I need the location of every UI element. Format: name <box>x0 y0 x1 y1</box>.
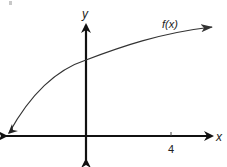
corner-mark <box>9 1 12 5</box>
function-curve <box>9 27 212 133</box>
x-axis-label: x <box>215 130 223 144</box>
function-graph: 4 x y f(x) <box>0 0 227 167</box>
x-tick-label-4: 4 <box>168 143 174 155</box>
y-axis-label: y <box>81 7 89 21</box>
curve-label: f(x) <box>162 18 178 30</box>
